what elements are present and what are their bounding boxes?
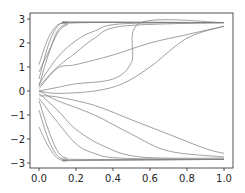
trajectory-line bbox=[39, 110, 224, 160]
y-tick-label: 3 bbox=[19, 14, 25, 25]
trajectory-line bbox=[39, 101, 224, 160]
y-axis: 3210−1−2−3 bbox=[10, 14, 30, 169]
x-tick-label: 1.0 bbox=[216, 173, 232, 184]
y-tick-label: 0 bbox=[19, 86, 25, 97]
trajectory-line bbox=[39, 23, 224, 84]
trajectory-line bbox=[39, 22, 224, 79]
y-tick-label: 2 bbox=[19, 38, 25, 49]
x-tick-label: 0.2 bbox=[68, 173, 84, 184]
trajectory-line bbox=[39, 22, 224, 71]
x-tick-label: 0.6 bbox=[142, 173, 158, 184]
y-tick-label: −2 bbox=[10, 134, 25, 145]
x-tick-label: 0.8 bbox=[179, 173, 195, 184]
trajectory-line bbox=[39, 20, 224, 91]
trajectory-line bbox=[39, 22, 224, 64]
y-tick-label: −3 bbox=[10, 158, 25, 169]
trajectory-line bbox=[39, 98, 224, 159]
y-tick-label: −1 bbox=[10, 110, 25, 121]
x-axis: 0.00.20.40.60.81.0 bbox=[31, 168, 232, 184]
trajectory-line bbox=[39, 91, 224, 157]
y-tick-label: 1 bbox=[19, 62, 25, 73]
line-chart: 3210−1−2−3 0.00.20.40.60.81.0 bbox=[0, 0, 245, 193]
x-tick-label: 0.4 bbox=[105, 173, 121, 184]
x-tick-label: 0.0 bbox=[31, 173, 47, 184]
plot-frame bbox=[30, 13, 233, 168]
trajectory-line bbox=[39, 93, 224, 158]
trajectory-lines bbox=[39, 20, 224, 161]
